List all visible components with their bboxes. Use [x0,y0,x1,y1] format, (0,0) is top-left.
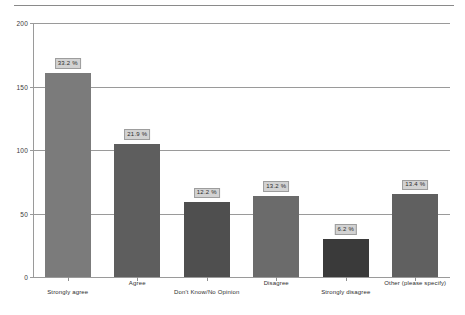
y-tick-mark [30,23,34,24]
bar-value-label: 12.2 % [194,188,220,199]
x-tick-mark [346,277,347,281]
x-tick-mark [68,277,69,281]
y-axis-tick-label: 50 [20,210,28,217]
bar-value-label: 6.2 % [335,224,357,235]
y-tick-mark [30,214,34,215]
y-axis-tick-label: 150 [17,83,28,90]
y-axis-tick-label: 200 [17,20,28,27]
y-tick-mark [30,277,34,278]
y-gridline [33,87,450,88]
x-axis-category-label: Disagree [264,280,289,286]
y-gridline [33,23,450,24]
bar: 33.2 % [45,73,91,277]
plot-area: 05010015020033.2 %21.9 %12.2 %13.2 %6.2 … [33,23,450,277]
bar-value-label: 21.9 % [124,129,150,140]
bar-chart: 05010015020033.2 %21.9 %12.2 %13.2 %6.2 … [0,0,465,315]
y-tick-mark [30,87,34,88]
x-tick-mark [207,277,208,281]
x-axis-category-label: Strongly disagree [321,289,370,295]
y-tick-mark [30,150,34,151]
x-axis-category-label: Don't Know/No Opinion [174,289,239,295]
bar-value-label: 33.2 % [55,58,81,69]
bar: 21.9 % [114,144,160,277]
x-axis-category-label: Other (please specify) [384,280,446,286]
bar: 13.4 % [392,194,438,277]
bar: 6.2 % [323,239,369,277]
bar-value-label: 13.4 % [402,180,428,191]
bar: 13.2 % [253,196,299,277]
x-axis-category-label: Strongly agree [47,289,88,295]
bar: 12.2 % [184,202,230,277]
y-gridline [33,150,450,151]
y-gridline [33,277,450,278]
y-axis-tick-label: 100 [17,147,28,154]
y-axis-tick-label: 0 [24,274,28,281]
bar-value-label: 13.2 % [263,181,289,192]
header-divider [14,5,454,6]
x-axis-category-label: Agree [129,280,146,286]
y-gridline [33,214,450,215]
